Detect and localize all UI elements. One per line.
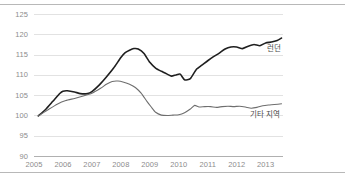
line-chart-plot <box>0 0 345 177</box>
x-tick-label: 2005 <box>19 161 49 169</box>
y-tick-label: 110 <box>6 71 28 79</box>
x-tick-label: 2007 <box>77 161 107 169</box>
y-tick-label: 120 <box>6 31 28 39</box>
series-line-2 <box>38 81 281 116</box>
chart-figure: 9095100105110115120125 20052006200720082… <box>0 0 345 177</box>
series-label-1: 런던 <box>267 45 281 53</box>
y-tick-label: 100 <box>6 112 28 120</box>
x-tick-label: 2012 <box>222 161 252 169</box>
x-tick-label: 2010 <box>164 161 194 169</box>
y-tick-label: 90 <box>6 153 28 161</box>
y-tick-label: 105 <box>6 92 28 100</box>
y-tick-label: 125 <box>6 11 28 19</box>
x-tick-label: 2013 <box>251 161 281 169</box>
x-tick-label: 2011 <box>193 161 223 169</box>
series-label-2: 기타 지역 <box>250 111 280 119</box>
y-tick-label: 115 <box>6 51 28 59</box>
gridlines-group <box>34 15 283 137</box>
series-group <box>38 38 281 116</box>
x-tick-label: 2008 <box>106 161 136 169</box>
x-tick-label: 2006 <box>48 161 78 169</box>
x-tick-label: 2009 <box>135 161 165 169</box>
series-line-1 <box>38 38 281 116</box>
y-tick-label: 95 <box>6 132 28 140</box>
